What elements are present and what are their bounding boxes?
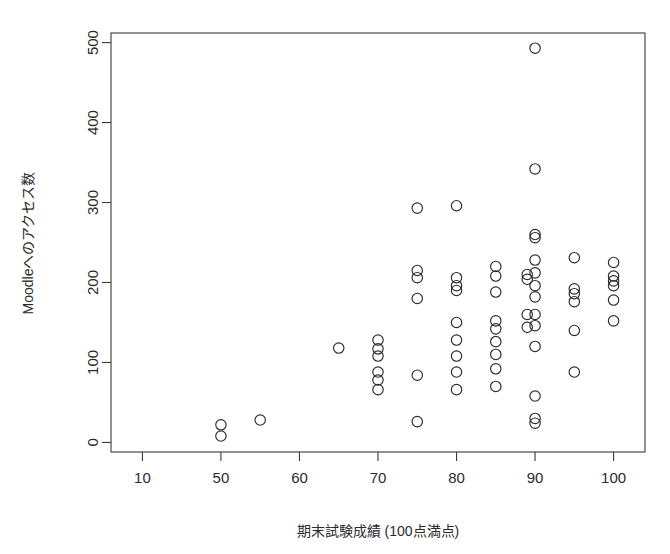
data-point — [491, 349, 501, 359]
data-point — [569, 325, 579, 335]
data-point — [530, 341, 540, 351]
data-point — [569, 367, 579, 377]
data-point — [412, 203, 422, 213]
x-tick-label: 80 — [448, 469, 465, 486]
y-tick-label: 100 — [84, 350, 101, 375]
data-point — [255, 415, 265, 425]
data-point — [451, 367, 461, 377]
data-point — [373, 384, 383, 394]
data-point — [491, 336, 501, 346]
y-tick-label: 0 — [84, 438, 101, 446]
y-tick-label: 500 — [84, 30, 101, 55]
data-point — [530, 268, 540, 278]
plot-frame — [111, 33, 645, 452]
data-point — [530, 255, 540, 265]
x-tick-label: 60 — [291, 469, 308, 486]
data-point — [373, 351, 383, 361]
data-point — [412, 293, 422, 303]
data-point — [451, 384, 461, 394]
data-point — [491, 364, 501, 374]
data-point — [530, 280, 540, 290]
x-tick-label: 10 — [134, 469, 151, 486]
data-point — [491, 381, 501, 391]
y-axis-title: Moodleへのアクセス数 — [20, 172, 36, 315]
data-point — [530, 43, 540, 53]
data-point — [608, 257, 618, 267]
data-point — [373, 375, 383, 385]
data-point — [530, 391, 540, 401]
x-tick-label: 70 — [370, 469, 387, 486]
data-point — [412, 370, 422, 380]
data-point — [451, 351, 461, 361]
data-point — [216, 431, 226, 441]
data-points-layer — [216, 43, 619, 441]
data-point — [334, 343, 344, 353]
data-point — [451, 317, 461, 327]
y-axis-ticks: 0100200300400500 — [84, 30, 111, 446]
y-tick-label: 300 — [84, 190, 101, 215]
x-axis-ticks: 105060708090100 — [134, 452, 626, 486]
data-point — [530, 164, 540, 174]
data-point — [608, 316, 618, 326]
data-point — [216, 420, 226, 430]
data-point — [608, 295, 618, 305]
data-point — [530, 309, 540, 319]
data-point — [491, 324, 501, 334]
data-point — [451, 335, 461, 345]
scatter-plot-figure: 105060708090100 0100200300400500 期末試験成績 … — [0, 0, 670, 554]
data-point — [491, 261, 501, 271]
y-tick-label: 400 — [84, 110, 101, 135]
x-tick-label: 100 — [601, 469, 626, 486]
data-point — [491, 287, 501, 297]
data-point — [412, 272, 422, 282]
data-point — [491, 271, 501, 281]
data-point — [569, 252, 579, 262]
x-axis-title: 期末試験成績 (100点満点) — [297, 523, 460, 539]
x-tick-label: 90 — [527, 469, 544, 486]
chart-canvas: 105060708090100 0100200300400500 期末試験成績 … — [0, 0, 670, 554]
y-tick-label: 200 — [84, 270, 101, 295]
data-point — [569, 296, 579, 306]
x-tick-label: 50 — [213, 469, 230, 486]
data-point — [451, 201, 461, 211]
data-point — [530, 292, 540, 302]
data-point — [412, 416, 422, 426]
data-point — [530, 320, 540, 330]
